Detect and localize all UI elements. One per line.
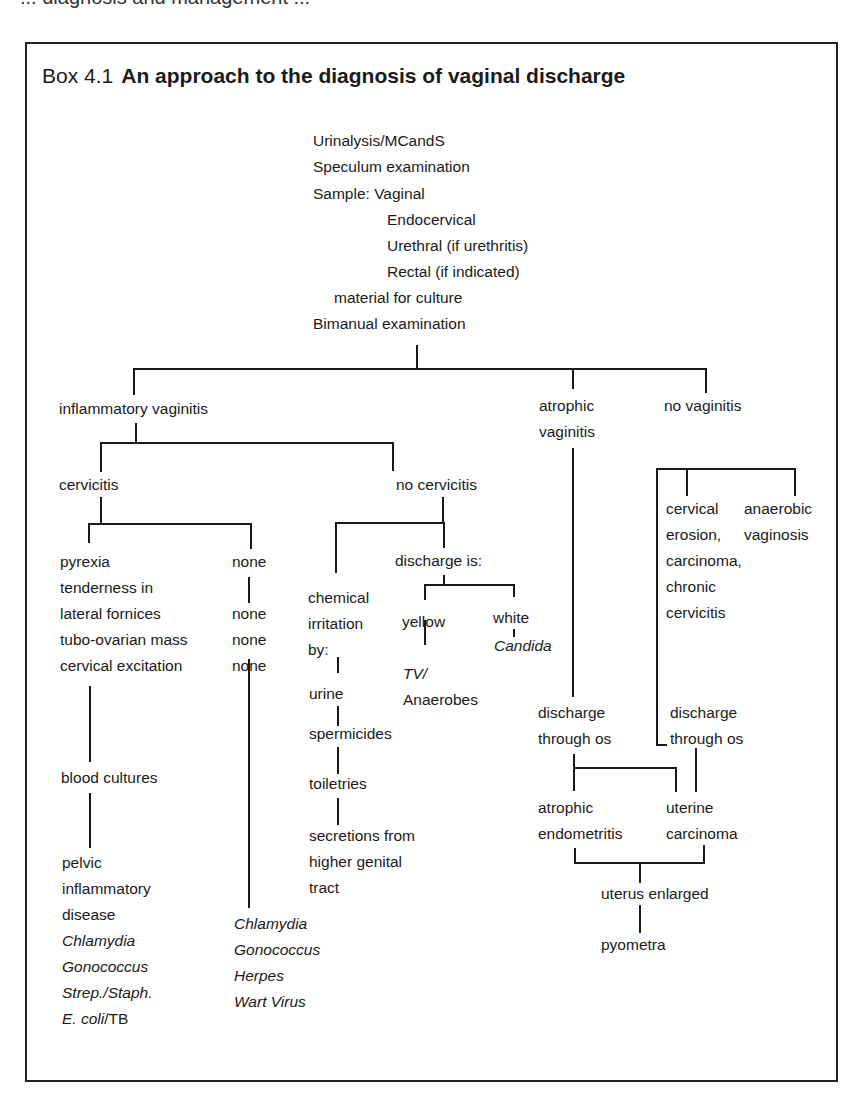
secretions-1: secretions from: [309, 823, 415, 849]
node-inflammatory-vaginitis: inflammatory vaginitis: [59, 396, 208, 422]
node-atrophic-endometritis-2: endometritis: [538, 821, 622, 847]
node-cervicitis: cervicitis: [59, 472, 118, 498]
atrophic-discharge-os-1: discharge: [538, 700, 605, 726]
node-atrophic-vaginitis-1: atrophic: [539, 393, 594, 419]
atrophic-discharge-os-2: through os: [538, 726, 611, 752]
secretions-3: tract: [309, 875, 339, 901]
node-chemical-1: chemical: [308, 585, 369, 611]
none-organism-wart-virus: Wart Virus: [234, 989, 306, 1015]
node-cervical-5: cervicitis: [666, 600, 725, 626]
node-tv: TV/: [403, 661, 427, 687]
irritant-toiletries: toiletries: [309, 771, 367, 797]
node-chemical-2: irritation: [308, 611, 363, 637]
node-no-cervicitis: no cervicitis: [396, 472, 477, 498]
pid-line-3: disease: [62, 902, 115, 928]
none-organism-gonococcus: Gonococcus: [234, 937, 320, 963]
step-material-culture: material for culture: [334, 285, 462, 311]
sign-tubo-ovarian: tubo-ovarian mass: [60, 627, 188, 653]
node-chemical-3: by:: [308, 637, 329, 663]
sign-lateral-fornices: lateral fornices: [60, 601, 161, 627]
secretions-2: higher genital: [309, 849, 402, 875]
node-pyometra: pyometra: [601, 932, 666, 958]
step-bimanual: Bimanual examination: [313, 311, 466, 337]
tb-text: /TB: [104, 1010, 128, 1027]
step-urinalysis: Urinalysis/MCandS: [313, 128, 445, 154]
sign-cervical-excitation: cervical excitation: [60, 653, 182, 679]
ecoli-text: E. coli: [62, 1010, 104, 1027]
novag-discharge-os-1: discharge: [670, 700, 737, 726]
step-sample-vaginal: Sample: Vaginal: [313, 181, 425, 207]
pid-organism-ecoli-tb: E. coli/TB: [62, 1006, 128, 1032]
none-organism-herpes: Herpes: [234, 963, 284, 989]
none-2: none: [232, 601, 266, 627]
novag-discharge-os-2: through os: [670, 726, 743, 752]
node-discharge-is: discharge is:: [395, 548, 482, 574]
node-atrophic-endometritis-1: atrophic: [538, 795, 593, 821]
node-cervical-4: chronic: [666, 574, 716, 600]
pid-line-2: inflammatory: [62, 876, 151, 902]
step-sample-rectal: Rectal (if indicated): [387, 259, 520, 285]
node-yellow: yellow: [402, 609, 445, 635]
node-blood-cultures: blood cultures: [61, 765, 158, 791]
step-speculum: Speculum examination: [313, 154, 470, 180]
none-1: none: [232, 549, 266, 575]
pid-line-1: pelvic: [62, 850, 102, 876]
none-3: none: [232, 627, 266, 653]
pid-organism-strep-staph: Strep./Staph.: [62, 980, 152, 1006]
node-white: white: [493, 605, 529, 631]
node-atrophic-vaginitis-2: vaginitis: [539, 419, 595, 445]
node-anaerobic-2: vaginosis: [744, 522, 809, 548]
step-sample-urethral: Urethral (if urethritis): [387, 233, 528, 259]
irritant-spermicides: spermicides: [309, 721, 392, 747]
sign-pyrexia: pyrexia: [60, 549, 110, 575]
node-cervical-1: cervical: [666, 496, 719, 522]
sign-tenderness: tenderness in: [60, 575, 153, 601]
node-cervical-2: erosion,: [666, 522, 721, 548]
node-uterus-enlarged: uterus enlarged: [601, 881, 709, 907]
node-no-vaginitis: no vaginitis: [664, 393, 742, 419]
irritant-urine: urine: [309, 681, 343, 707]
pid-organism-chlamydia: Chlamydia: [62, 928, 135, 954]
step-sample-endocervical: Endocervical: [387, 207, 476, 233]
none-4: none: [232, 653, 266, 679]
pid-organism-gonococcus: Gonococcus: [62, 954, 148, 980]
node-candida: Candida: [494, 633, 552, 659]
node-uterine-carcinoma-1: uterine: [666, 795, 713, 821]
none-organism-chlamydia: Chlamydia: [234, 911, 307, 937]
node-anaerobes: Anaerobes: [403, 687, 478, 713]
node-cervical-3: carcinoma,: [666, 548, 742, 574]
node-uterine-carcinoma-2: carcinoma: [666, 821, 738, 847]
node-anaerobic-1: anaerobic: [744, 496, 812, 522]
